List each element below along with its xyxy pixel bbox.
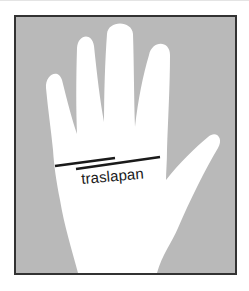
palm-illustration (0, 0, 249, 291)
